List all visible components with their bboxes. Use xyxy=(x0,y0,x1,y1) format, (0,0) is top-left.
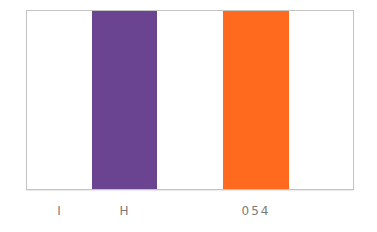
label-h: H xyxy=(119,204,130,218)
orange-stripe xyxy=(223,11,289,189)
label-i: I xyxy=(57,204,63,218)
color-swatch-flag xyxy=(26,10,354,190)
label-054: 054 xyxy=(242,204,271,218)
purple-stripe xyxy=(92,11,157,189)
